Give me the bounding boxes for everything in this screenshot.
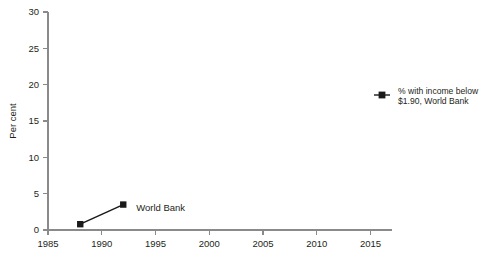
x-tick-label: 2000 <box>199 238 220 249</box>
chart-container: 051015202530 Per cent 198519901995200020… <box>0 0 491 262</box>
x-tick-label: 2015 <box>360 238 381 249</box>
x-tick-label: 1995 <box>145 238 166 249</box>
data-point-marker <box>120 201 126 207</box>
x-tick-label: 2005 <box>252 238 273 249</box>
x-axis: 1985199019952000200520102015 <box>37 230 392 249</box>
line-chart: 051015202530 Per cent 198519901995200020… <box>0 0 491 262</box>
y-axis-title: Per cent <box>7 103 18 139</box>
series-group <box>77 201 126 227</box>
y-axis: 051015202530 Per cent <box>7 6 48 235</box>
x-axis-ticks: 1985199019952000200520102015 <box>37 230 381 249</box>
legend-marker <box>379 92 386 99</box>
data-point-marker <box>77 221 83 227</box>
series-inline-label: World Bank <box>136 202 185 213</box>
series-line <box>80 205 123 225</box>
legend-label-line2: $1.90, World Bank <box>398 96 469 106</box>
y-tick-label: 30 <box>28 6 39 17</box>
legend: % with income below$1.90, World Bank <box>374 86 479 106</box>
series-annotations: World Bank <box>136 202 185 213</box>
x-tick-label: 1985 <box>37 238 58 249</box>
y-tick-label: 20 <box>28 79 39 90</box>
y-tick-label: 5 <box>34 188 39 199</box>
y-tick-label: 25 <box>28 43 39 54</box>
y-axis-ticks: 051015202530 <box>28 6 48 235</box>
y-tick-label: 15 <box>28 115 39 126</box>
legend-label-line1: % with income below <box>398 86 479 96</box>
x-tick-label: 1990 <box>91 238 112 249</box>
y-tick-label: 0 <box>34 224 39 235</box>
y-tick-label: 10 <box>28 152 39 163</box>
x-tick-label: 2010 <box>306 238 327 249</box>
